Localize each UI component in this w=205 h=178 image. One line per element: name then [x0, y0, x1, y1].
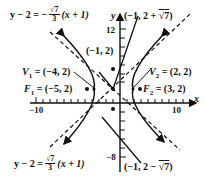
y-tick-12: 12: [106, 26, 115, 35]
vertex-v1-label: V1 = (−4, 2): [22, 67, 70, 80]
y-tick-neg8: −8: [106, 153, 116, 162]
conjugate-bottom-label: (−1, 2 − √7): [124, 162, 173, 172]
x-axis-label: x: [194, 94, 199, 104]
vertex-point-v1: [93, 88, 96, 91]
asymptote-equation-top: y − 2 = − √73 (x + 1): [10, 6, 89, 23]
vertex-v2-label: V2 = (2, 2): [149, 67, 192, 80]
points: [85, 67, 142, 111]
focus-point-f1: [85, 87, 89, 91]
center-label: (−1, 2): [86, 46, 113, 56]
vertex-point-v2: [132, 88, 135, 91]
asymptote-equation-bottom: y − 2 = √73 (x + 1): [14, 155, 85, 172]
focus-f2-label: F2 = (3, 2): [143, 84, 186, 97]
conjugate-point-top: [111, 67, 115, 71]
label-leaders: [74, 70, 150, 88]
conjugate-point-bottom: [111, 107, 115, 111]
y-axis: [120, 14, 126, 172]
y-axis-label: y: [111, 11, 115, 21]
x-tick-neg10: −10: [29, 106, 43, 115]
x-axis: [30, 97, 196, 103]
x-tick-10: 10: [172, 106, 181, 115]
focus-f1-label: F1 = (−5, 2): [24, 84, 72, 97]
focus-point-f2: [138, 87, 142, 91]
center-point: [111, 87, 115, 91]
conjugate-top-label: (−1, 2 + √7): [124, 11, 173, 21]
